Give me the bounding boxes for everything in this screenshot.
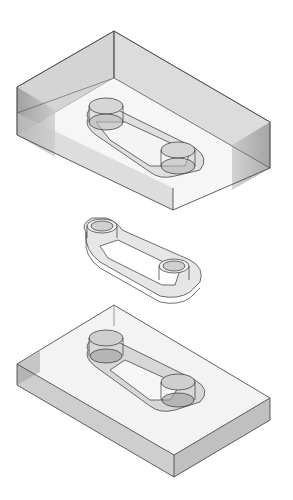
mold-exploded-view [0, 0, 293, 500]
molded-part [84, 218, 201, 303]
upper-mold-block [17, 31, 270, 210]
